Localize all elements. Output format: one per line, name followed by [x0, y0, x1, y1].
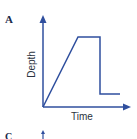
x-axis-label: Time	[71, 111, 93, 122]
depth-time-chart	[0, 0, 137, 139]
depth-line	[43, 37, 120, 107]
panel-c-arrow-icon	[41, 130, 45, 134]
x-axis-arrow-icon	[123, 104, 131, 111]
y-axis-arrow-icon	[40, 15, 47, 23]
panel-label-c: C	[5, 131, 12, 139]
y-axis-label: Depth	[26, 50, 37, 80]
